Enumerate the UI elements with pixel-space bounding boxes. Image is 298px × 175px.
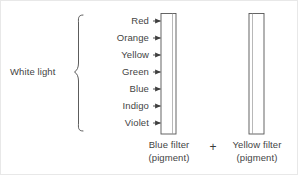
blue-filter-caption: Blue filter (pigment)	[133, 139, 205, 164]
blue-filter-shape	[161, 14, 176, 135]
color-filter-diagram: White light Red Orange Yellow Green Blue…	[0, 0, 298, 175]
spectrum-label-red: Red	[131, 16, 149, 26]
yellow-filter-shape	[249, 14, 264, 135]
spectrum-label-blue: Blue	[130, 84, 149, 94]
spectrum-label-indigo: Indigo	[123, 101, 149, 111]
spectrum-label-orange: Orange	[117, 33, 149, 43]
light-ray-arrows	[153, 21, 161, 123]
spectrum-label-yellow: Yellow	[121, 50, 149, 60]
spectrum-label-violet: Violet	[125, 118, 149, 128]
white-light-brace	[75, 15, 84, 131]
yellow-filter-caption: Yellow filter (pigment)	[220, 139, 294, 164]
spectrum-label-green: Green	[122, 67, 149, 77]
white-light-label: White light	[10, 67, 55, 77]
